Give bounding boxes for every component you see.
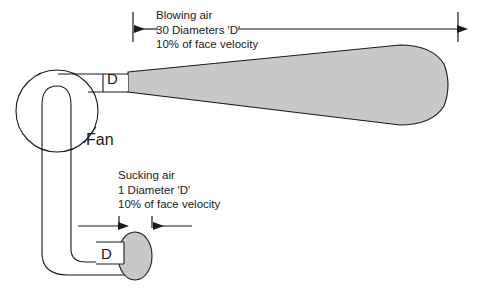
sucking-air-note: Sucking air 1 Diameter 'D' 10% of face v… bbox=[118, 168, 220, 212]
outlet-diameter-label: D bbox=[107, 69, 118, 88]
sucking-note-line2: 1 Diameter 'D' bbox=[118, 183, 220, 198]
blowing-air-note: Blowing air 30 Diameters 'D' 10% of face… bbox=[156, 8, 258, 52]
blowing-note-line2: 30 Diameters 'D' bbox=[156, 23, 258, 38]
blowing-cone-body bbox=[128, 45, 448, 125]
blowing-note-line1: Blowing air bbox=[156, 8, 258, 23]
blowing-air-cone bbox=[128, 45, 448, 125]
sucking-note-line1: Sucking air bbox=[118, 168, 220, 183]
blowing-note-line3: 10% of face velocity bbox=[156, 37, 258, 52]
inlet-diameter-label: D bbox=[101, 244, 112, 263]
sucking-note-line3: 10% of face velocity bbox=[118, 197, 220, 212]
fan-label: Fan bbox=[86, 130, 114, 150]
sucking-dimension-line bbox=[78, 216, 192, 228]
diagram-canvas: Blowing air 30 Diameters 'D' 10% of face… bbox=[0, 0, 480, 289]
